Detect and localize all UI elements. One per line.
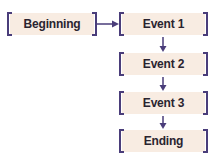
node-event-3: Event 3 xyxy=(119,91,208,115)
node-ending: Ending xyxy=(119,129,208,153)
node-label: Beginning xyxy=(7,12,97,36)
node-event-1: Event 1 xyxy=(119,12,208,36)
node-label: Event 1 xyxy=(119,12,208,36)
node-beginning: Beginning xyxy=(7,12,97,36)
node-label: Event 3 xyxy=(119,91,208,115)
node-event-2: Event 2 xyxy=(119,52,208,76)
node-label: Event 2 xyxy=(119,52,208,76)
node-label: Ending xyxy=(119,129,208,153)
